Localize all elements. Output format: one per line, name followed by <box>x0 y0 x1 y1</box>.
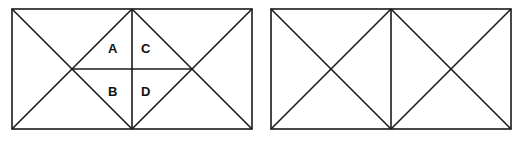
left-figure: A C B D <box>12 9 252 129</box>
right-figure <box>271 9 511 129</box>
label-b: B <box>108 84 117 99</box>
label-d: D <box>141 84 150 99</box>
label-c: C <box>141 41 151 56</box>
label-a: A <box>108 41 118 56</box>
diagram-canvas: A C B D <box>0 0 526 142</box>
